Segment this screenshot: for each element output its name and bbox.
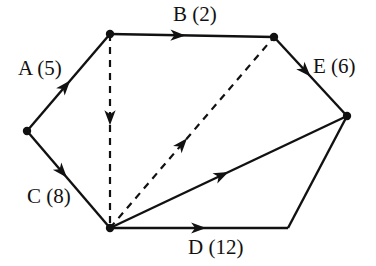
arrowheads-layer [53, 30, 315, 234]
node-top-right [270, 33, 278, 41]
node-right [343, 112, 351, 120]
edge-diagonal-solid [110, 116, 347, 228]
node-left [23, 127, 31, 135]
graph-canvas [0, 0, 376, 266]
edge-right-bottom [288, 116, 347, 228]
edge-dashed-diagonal [110, 37, 274, 228]
node-top-left [106, 30, 114, 38]
edges-layer [27, 34, 347, 228]
node-bottom-left [106, 224, 114, 232]
edge-label-d: D (12) [188, 237, 243, 258]
graph-diagram: A (5) B (2) C (8) D (12) E (6) [0, 0, 376, 266]
edge-label-a: A (5) [18, 58, 62, 79]
edge-diagonal-solid-arrowhead [213, 167, 231, 184]
edge-label-e: E (6) [313, 56, 356, 77]
edge-c [27, 131, 110, 228]
edge-b [110, 34, 274, 37]
edge-label-c: C (8) [27, 186, 71, 207]
edge-label-b: B (2) [173, 4, 217, 25]
